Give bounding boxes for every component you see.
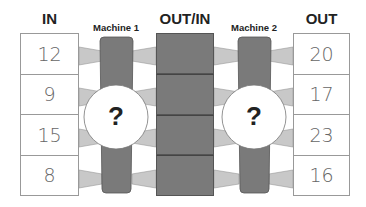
- in-cell: 8: [20, 156, 79, 197]
- out-cell: 16: [293, 156, 350, 197]
- out-in-cell: [156, 74, 214, 115]
- out-in-column: [156, 33, 214, 196]
- out-cell: 20: [293, 33, 350, 75]
- in-cell: 9: [20, 75, 79, 116]
- machine2-label: Machine 2: [224, 22, 284, 33]
- in-header: IN: [20, 10, 79, 27]
- in-cell: 15: [20, 115, 79, 156]
- out-header: OUT: [293, 10, 350, 27]
- in-cell: 12: [20, 33, 79, 75]
- out-cell: 23: [293, 115, 350, 156]
- out-cell: 17: [293, 75, 350, 116]
- out-in-header: OUT/IN: [150, 10, 220, 27]
- out-column: 20 17 23 16: [293, 33, 350, 196]
- out-in-cell: [156, 33, 214, 74]
- machine1-question-mark: ?: [96, 101, 136, 132]
- machine2-question-mark: ?: [234, 101, 274, 132]
- out-in-cell: [156, 155, 214, 196]
- machine1-label: Machine 1: [86, 22, 146, 33]
- in-column: 12 9 15 8: [20, 33, 79, 196]
- out-in-cell: [156, 115, 214, 156]
